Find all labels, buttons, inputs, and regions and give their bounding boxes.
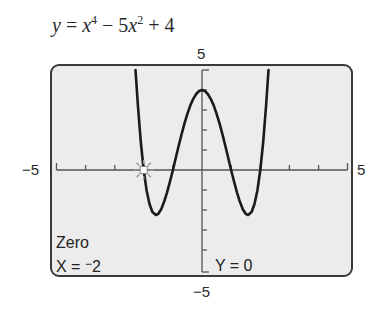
- trace-cursor-icon: [134, 160, 154, 180]
- x-readout: X = −2: [56, 258, 101, 275]
- x-readout-prefix: X =: [56, 258, 85, 275]
- x-readout-value: 2: [92, 258, 101, 275]
- x-readout-sign: −: [85, 257, 92, 271]
- zero-mode-label: Zero: [56, 235, 89, 251]
- y-readout: Y = 0: [215, 258, 253, 274]
- y-axis: [202, 70, 209, 272]
